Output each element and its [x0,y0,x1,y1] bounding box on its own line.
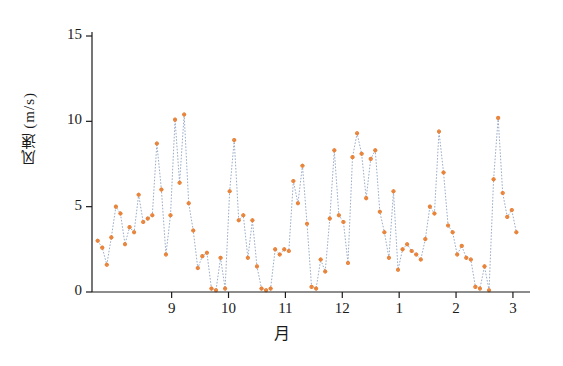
data-point [323,270,327,274]
data-point [182,113,186,117]
x-tick-label: 10 [214,300,244,317]
data-point [428,205,432,209]
data-point [510,208,514,212]
data-point [209,287,213,291]
data-point [137,193,141,197]
data-point [282,247,286,251]
data-point [505,215,509,219]
data-point [241,213,245,217]
data-point [96,239,100,243]
data-point [432,211,436,215]
data-point [109,235,113,239]
data-point [514,230,518,234]
data-point [492,177,496,181]
data-point [146,217,150,221]
data-point [118,211,122,215]
data-point [278,252,282,256]
y-tick-label: 0 [54,282,82,299]
data-point [296,201,300,205]
data-point [132,230,136,234]
data-point [173,118,177,122]
data-point [269,287,273,291]
data-point [128,225,132,229]
data-point [273,247,277,251]
data-point [305,222,309,226]
data-point [455,252,459,256]
data-point [369,157,373,161]
data-point [382,230,386,234]
data-point [451,230,455,234]
data-point [205,251,209,255]
data-point [501,191,505,195]
data-point [100,246,104,250]
x-tick-label: 3 [498,300,528,317]
data-point [314,287,318,291]
y-tick-label: 15 [54,26,82,43]
data-point [300,164,304,168]
data-point [423,237,427,241]
data-point [341,220,345,224]
x-axis-title: 月 [0,320,563,344]
x-tick-label: 12 [327,300,357,317]
data-point [200,254,204,258]
data-point [164,252,168,256]
data-point [319,258,323,262]
data-point [250,218,254,222]
data-point [460,244,464,248]
data-point [469,258,473,262]
y-tick-label: 5 [54,197,82,214]
data-point [332,148,336,152]
data-point [482,264,486,268]
data-point [105,263,109,267]
data-point [123,242,127,246]
data-point [328,217,332,221]
data-point [419,258,423,262]
data-point [291,179,295,183]
data-point [310,285,314,289]
x-tick-label: 9 [157,300,187,317]
data-point [464,256,468,260]
y-tick-label: 10 [54,111,82,128]
data-point [355,131,359,135]
data-point [246,256,250,260]
data-point [223,287,227,291]
data-point [155,142,159,146]
data-point [159,188,163,192]
data-point [391,189,395,193]
data-point [168,213,172,217]
data-point [446,223,450,227]
series-line [98,115,517,291]
data-point [414,252,418,256]
x-tick-label: 1 [384,300,414,317]
data-point [337,213,341,217]
data-point [360,152,364,156]
data-point [346,261,350,265]
data-point [405,242,409,246]
y-axis-title: 风速 (m/s) [18,92,44,165]
data-point [364,196,368,200]
data-point [373,148,377,152]
data-point [141,220,145,224]
data-point [150,213,154,217]
data-point [442,171,446,175]
x-tick-label: 11 [270,300,300,317]
data-point [396,268,400,272]
data-point [351,155,355,159]
data-point [114,205,118,209]
data-point [473,285,477,289]
wind-speed-chart: 风速 (m/s) 月 0510159101112123 [0,0,563,366]
x-tick-label: 2 [441,300,471,317]
data-point [255,264,259,268]
data-point [219,256,223,260]
data-point [496,116,500,120]
data-point [178,181,182,185]
data-point [401,247,405,251]
data-point [410,249,414,253]
data-point [187,201,191,205]
data-point [378,210,382,214]
data-point [196,266,200,270]
data-point [191,229,195,233]
data-point [287,249,291,253]
data-point [232,138,236,142]
data-point [228,189,232,193]
